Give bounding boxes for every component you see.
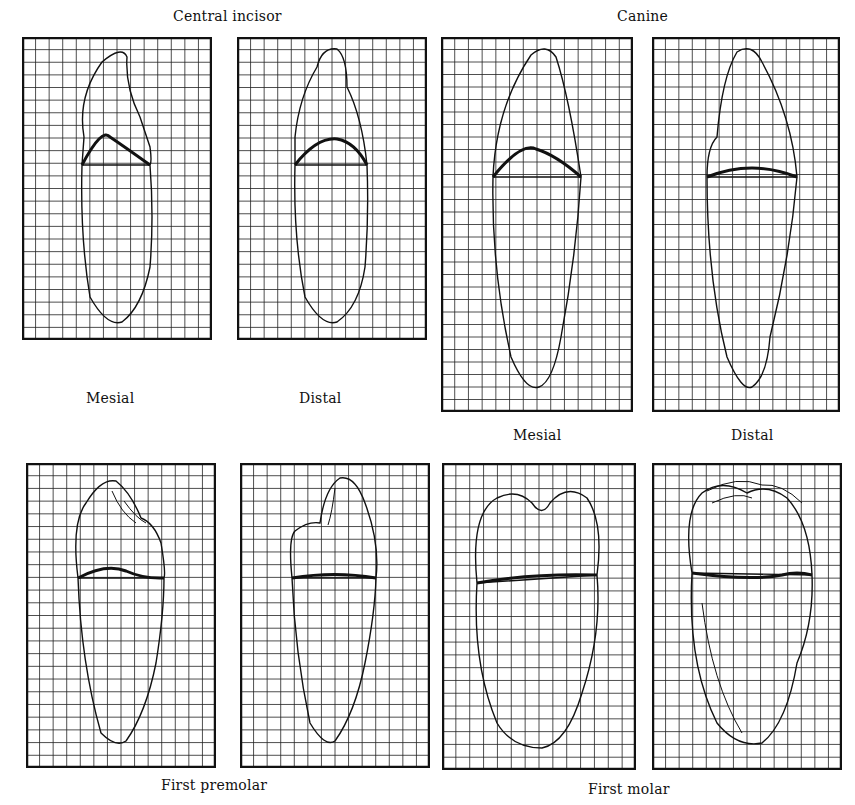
panel-incisor-mesial [22, 37, 212, 340]
tooth-outline-premolar-mesial [26, 463, 216, 768]
label-incisor-distal: Distal [299, 390, 342, 406]
panel-incisor-distal [237, 37, 427, 340]
title-canine: Canine [617, 8, 668, 24]
panel-canine-mesial [441, 37, 633, 412]
tooth-outline-molar-distal [652, 463, 842, 770]
title-first-molar: First molar [588, 781, 670, 797]
label-canine-distal: Distal [731, 427, 774, 443]
panel-premolar-mesial [26, 463, 216, 768]
title-central-incisor: Central incisor [173, 8, 282, 24]
tooth-outline-premolar-distal [240, 463, 430, 768]
tooth-outline-molar-mesial [442, 463, 636, 770]
tooth-outline-canine-mesial [441, 37, 633, 412]
tooth-outline-canine-distal [652, 37, 840, 412]
tooth-outline-incisor-mesial [22, 37, 212, 340]
tooth-outline-incisor-distal [237, 37, 427, 340]
panel-molar-mesial [442, 463, 636, 770]
panel-premolar-distal [240, 463, 430, 768]
label-incisor-mesial: Mesial [86, 390, 134, 406]
title-first-premolar: First premolar [161, 777, 267, 793]
panel-canine-distal [652, 37, 840, 412]
panel-molar-distal [652, 463, 842, 770]
label-canine-mesial: Mesial [513, 427, 561, 443]
